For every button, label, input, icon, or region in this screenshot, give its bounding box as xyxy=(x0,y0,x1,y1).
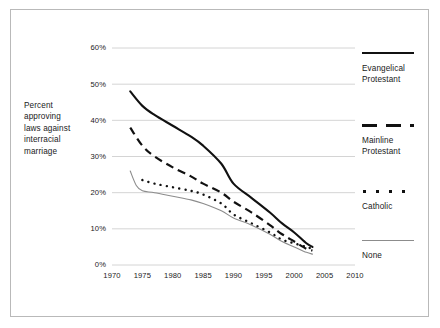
legend-label: Mainline xyxy=(362,135,434,146)
gridlines xyxy=(112,48,355,265)
legend-swatch-icon xyxy=(362,186,414,196)
legend-swatch-icon xyxy=(362,120,414,130)
legend-entry-catholic[interactable]: Catholic xyxy=(362,186,434,212)
series-line-evangelical-protestant xyxy=(130,91,312,247)
legend-entry-none[interactable]: None xyxy=(362,235,434,261)
legend-label: Protestant xyxy=(362,74,434,85)
legend-swatch-icon xyxy=(362,235,414,245)
legend-entry-mainline-protestant[interactable]: MainlineProtestant xyxy=(362,120,434,157)
legend-entry-evangelical-protestant[interactable]: EvangelicalProtestant xyxy=(362,48,434,85)
legend-label: Protestant xyxy=(362,146,434,157)
data-series-layer xyxy=(130,91,312,254)
legend-label: None xyxy=(362,250,434,261)
series-line-mainline-protestant xyxy=(130,128,312,251)
legend-label: Catholic xyxy=(362,201,434,212)
legend-label: Evangelical xyxy=(362,63,434,74)
legend-swatch-icon xyxy=(362,48,414,58)
